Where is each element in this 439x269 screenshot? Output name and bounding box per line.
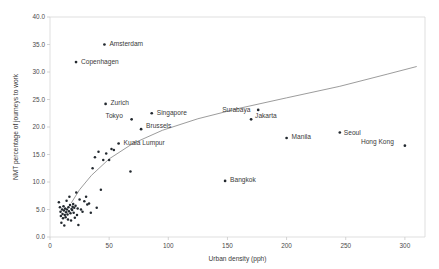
y-tick-label: 40.0 [33,13,46,20]
point-label-tokyo: Tokyo [106,112,124,120]
point-label-bangkok: Bangkok [230,176,256,184]
data-point [59,210,62,213]
data-point [71,209,74,212]
y-tick-label: 20.0 [33,123,46,130]
data-point [67,206,70,209]
data-point [66,208,69,211]
data-point [61,213,64,216]
y-axis-title: NMT percentage of journeys to work [12,73,20,180]
data-point [73,207,76,210]
point-label-zurich: Zurich [111,99,130,106]
data-point [68,210,71,213]
point-label-brussels: Brussels [146,122,172,129]
y-axis-ticks: 0.05.010.015.020.025.030.035.040.0 [33,13,50,240]
data-point [75,191,78,194]
y-tick-label: 5.0 [36,206,45,213]
x-tick-label: 250 [340,242,351,249]
y-tick-label: 25.0 [33,96,46,103]
x-axis-title: Urban density (pph) [209,255,267,263]
data-point [108,159,111,162]
labeled-data-points: AmsterdamCopenhagenZurichSingaporeTokyoB… [75,40,407,184]
point-label-copenhagen: Copenhagen [81,58,119,66]
data-point [83,200,86,203]
data-point [64,216,67,219]
data-point [60,215,63,218]
data-point [95,207,98,210]
x-tick-label: 300 [400,242,411,249]
y-tick-label: 0.0 [36,233,45,240]
y-tick-label: 15.0 [33,151,46,158]
data-point [69,204,72,207]
data-point-bangkok [224,180,227,183]
data-point [74,204,77,207]
point-label-amsterdam: Amsterdam [109,40,143,47]
x-tick-label: 0 [48,242,52,249]
data-point-zurich [104,103,107,106]
data-point [62,217,64,220]
point-label-jakarta: Jakarta [255,112,277,119]
data-point [68,196,71,199]
data-point [85,196,88,199]
data-point [59,206,62,209]
point-label-hong-kong: Hong Kong [361,138,394,146]
y-tick-label: 35.0 [33,41,46,48]
data-point [105,152,108,155]
data-point [113,149,116,152]
y-tick-label: 10.0 [33,178,46,185]
x-tick-label: 100 [163,242,174,249]
data-point [78,198,81,201]
data-point [88,202,91,205]
data-point [80,208,83,211]
point-label-surabaya: Surabaya [222,106,251,114]
point-label-seoul: Seoul [344,129,361,136]
data-point [74,217,77,220]
data-point [72,212,75,215]
data-point [81,210,84,213]
data-point [76,214,79,217]
data-point [66,213,69,216]
data-point-copenhagen [75,61,78,64]
data-point [70,219,73,222]
data-point [76,207,79,210]
data-point [58,201,61,204]
x-tick-label: 200 [281,242,292,249]
point-label-manila: Manila [292,133,312,140]
point-label-kuala-lumpur: Kuala Lumpur [124,139,166,147]
data-point-jakarta [250,118,253,121]
data-point-brussels [140,128,143,131]
data-point-manila [285,137,288,140]
data-point [72,203,75,206]
data-point [100,188,103,191]
data-point [129,170,132,173]
data-points [58,148,132,227]
data-point [67,218,70,221]
data-point [94,156,97,159]
data-point-hong-kong [404,144,407,147]
scatter-chart: 050100150200250300 0.05.010.015.020.025.… [0,0,439,269]
x-tick-label: 50 [106,242,114,249]
data-point [65,199,68,202]
data-point [97,151,100,154]
data-point-tokyo [130,118,133,121]
data-point-singapore [150,112,153,115]
data-point [60,221,63,224]
y-tick-label: 30.0 [33,68,46,75]
x-tick-label: 150 [222,242,233,249]
point-label-singapore: Singapore [157,109,187,117]
data-point [91,167,94,170]
data-point [90,212,93,215]
data-point [64,214,67,217]
data-point [77,224,80,227]
data-point-seoul [338,131,341,134]
data-point [110,148,113,151]
data-point [69,212,72,215]
data-point [63,209,66,212]
data-point-kuala-lumpur [117,142,120,145]
data-point [102,159,105,162]
data-point [65,211,68,214]
data-point [63,224,66,227]
plot-frame [50,17,425,237]
chart-canvas: 050100150200250300 0.05.010.015.020.025.… [0,0,439,269]
data-point-amsterdam [103,43,106,46]
x-axis-ticks: 050100150200250300 [48,237,410,249]
